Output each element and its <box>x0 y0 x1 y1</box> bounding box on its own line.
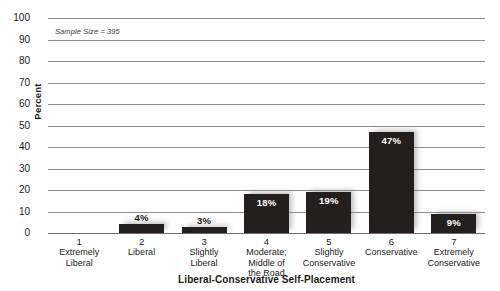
x-label-slot-6: 6Conservative <box>360 236 422 258</box>
y-tick-label-80: 80 <box>0 56 30 66</box>
x-label-text-5-1: Slightly <box>298 247 360 258</box>
x-axis-title: Liberal-Conservative Self-Placement <box>48 274 485 285</box>
bar-3[interactable] <box>182 227 227 233</box>
x-label-slot-5: 5SlightlyConservative <box>298 236 360 268</box>
x-label-number-4: 4 <box>235 236 297 247</box>
x-label-text-3-2: Liberal <box>173 258 235 269</box>
x-label-number-2: 2 <box>110 236 172 247</box>
plot-area: 1009080706050403020100 Sample Size = 395… <box>48 18 485 233</box>
bars-group: 4%3%18%19%47%9% <box>48 18 485 233</box>
bar-value-label-7: 9% <box>431 217 476 228</box>
y-tick-label-50: 50 <box>0 121 30 131</box>
bar-slot-5: 19% <box>298 18 360 233</box>
bar-value-label-2: 4% <box>119 212 164 223</box>
bar-2[interactable] <box>119 224 164 233</box>
y-tick-label-30: 30 <box>0 164 30 174</box>
bar-6[interactable] <box>369 132 414 233</box>
y-tick-label-10: 10 <box>0 207 30 217</box>
x-label-number-1: 1 <box>48 236 110 247</box>
x-label-number-6: 6 <box>360 236 422 247</box>
bar-value-label-5: 19% <box>306 195 351 206</box>
bar-slot-1 <box>48 18 110 233</box>
x-label-number-7: 7 <box>423 236 485 247</box>
y-tick-label-20: 20 <box>0 185 30 195</box>
y-tick-label-40: 40 <box>0 142 30 152</box>
bar-slot-4: 18% <box>235 18 297 233</box>
y-tick-label-70: 70 <box>0 78 30 88</box>
x-label-text-2-1: Liberal <box>110 247 172 258</box>
bar-value-label-6: 47% <box>369 135 414 146</box>
gridline-0 <box>48 233 485 234</box>
x-label-text-1-1: Extremely <box>48 247 110 258</box>
y-tick-label-100: 100 <box>0 13 30 23</box>
bar-value-label-4: 18% <box>244 197 289 208</box>
x-label-slot-1: 1ExtremelyLiberal <box>48 236 110 268</box>
y-tick-label-90: 90 <box>0 35 30 45</box>
x-label-text-6-1: Conservative <box>360 247 422 258</box>
bar-value-label-3: 3% <box>182 215 227 226</box>
x-label-text-7-2: Conservative <box>423 258 485 269</box>
x-label-slot-2: 2Liberal <box>110 236 172 258</box>
x-label-slot-3: 3SlightlyLiberal <box>173 236 235 268</box>
x-label-text-5-2: Conservative <box>298 258 360 269</box>
x-label-slot-4: 4Moderate;Middle ofthe Road <box>235 236 297 279</box>
x-label-number-3: 3 <box>173 236 235 247</box>
bar-slot-6: 47% <box>360 18 422 233</box>
bar-chart: Percent 1009080706050403020100 Sample Si… <box>0 0 500 291</box>
bar-slot-7: 9% <box>423 18 485 233</box>
x-label-text-4-2: Middle of <box>235 258 297 269</box>
x-label-text-3-1: Slightly <box>173 247 235 258</box>
y-tick-label-60: 60 <box>0 99 30 109</box>
y-axis-title: Percent <box>32 67 43 137</box>
bar-slot-3: 3% <box>173 18 235 233</box>
x-label-number-5: 5 <box>298 236 360 247</box>
x-label-slot-7: 7ExtremelyConservative <box>423 236 485 268</box>
x-label-text-4-1: Moderate; <box>235 247 297 258</box>
y-tick-label-0: 0 <box>0 228 30 238</box>
x-label-text-7-1: Extremely <box>423 247 485 258</box>
x-label-text-1-2: Liberal <box>48 258 110 269</box>
bar-slot-2: 4% <box>110 18 172 233</box>
